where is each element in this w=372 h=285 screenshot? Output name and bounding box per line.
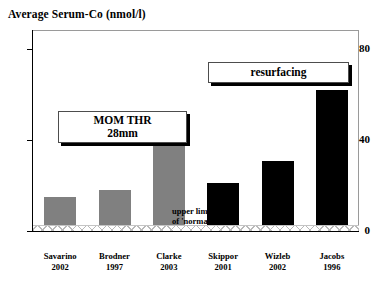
y-tick-mark-0 (27, 231, 32, 232)
upper-limit-note-line2: of 'normal' (172, 216, 232, 226)
upper-limit-note-line1: upper limit (172, 206, 232, 216)
callout-resurfacing: resurfacing (208, 62, 349, 83)
bar-jacobs (316, 90, 348, 231)
x-label-jacobs: Jacobs1996 (292, 251, 372, 272)
callout-mom-thr: MOM THR 28mm (58, 111, 187, 143)
x-label-year: 1996 (292, 262, 372, 273)
callout-mom-thr-line2: 28mm (107, 127, 138, 140)
y-tick-mark-40 (27, 140, 32, 141)
x-label-author: Jacobs (292, 251, 372, 262)
callout-resurfacing-label: resurfacing (250, 66, 306, 79)
chart-title: Average Serum-Co (nmol/l) (8, 8, 146, 20)
bar-wizleb (262, 161, 294, 231)
callout-mom-thr-line1: MOM THR (93, 114, 151, 127)
upper-limit-note: upper limit of 'normal' (172, 206, 232, 227)
y-tick-mark-80 (27, 49, 32, 50)
x-axis-line (32, 231, 359, 232)
